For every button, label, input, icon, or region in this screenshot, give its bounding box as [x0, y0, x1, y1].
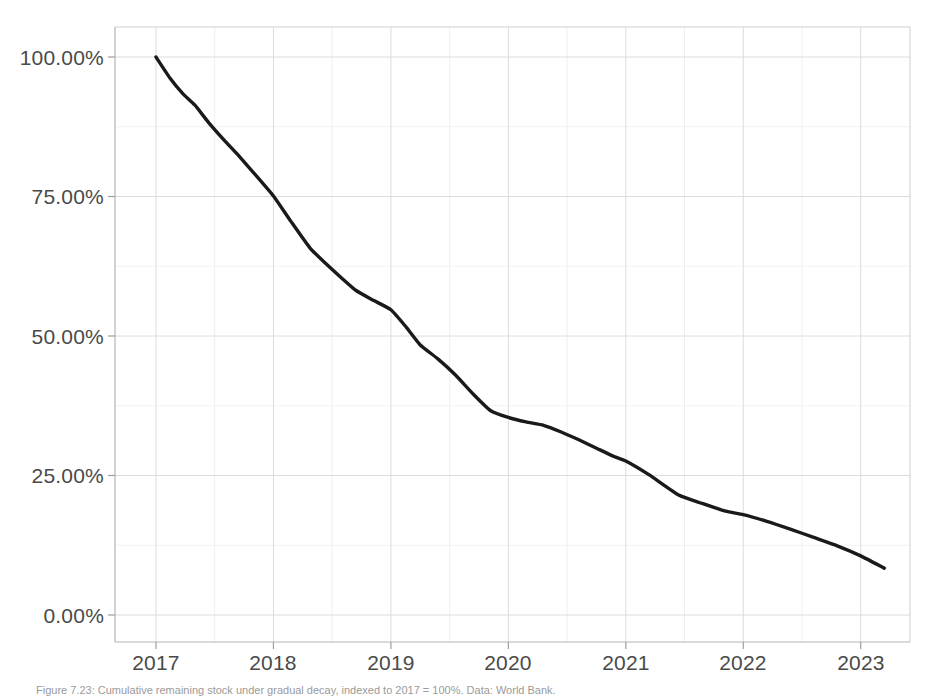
axis-ticks [108, 57, 861, 649]
major-gridlines [115, 27, 910, 642]
x-axis-tick-2019: 2019 [367, 652, 415, 673]
y-axis-tick-1: 75.00% [32, 186, 104, 207]
figure-caption: Figure 7.23: Cumulative remaining stock … [36, 684, 916, 697]
minor-gridlines [115, 27, 910, 642]
x-axis-tick-2022: 2022 [719, 652, 767, 673]
x-axis-tick-2020: 2020 [484, 652, 532, 673]
chart-plot [0, 0, 938, 697]
x-axis-tick-2018: 2018 [249, 652, 297, 673]
plot-frame [115, 27, 910, 642]
figure-container: 100.00% 75.00% 50.00% 25.00% 0.00% 2017 … [0, 0, 938, 697]
y-axis-tick-4: 0.00% [43, 605, 104, 626]
y-axis-tick-0: 100.00% [20, 47, 104, 68]
data-line-group [156, 57, 884, 568]
x-axis-tick-2023: 2023 [837, 652, 885, 673]
x-axis-tick-2017: 2017 [132, 652, 180, 673]
y-axis-tick-2: 50.00% [32, 326, 104, 347]
y-axis-tick-3: 25.00% [32, 465, 104, 486]
x-axis-tick-2021: 2021 [602, 652, 650, 673]
